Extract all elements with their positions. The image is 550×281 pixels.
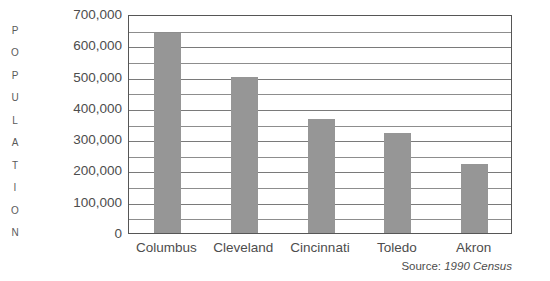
y-axis-tick-label: 0	[38, 227, 122, 241]
bar-akron	[461, 164, 488, 233]
x-axis-tick-label: Columbus	[136, 240, 197, 255]
y-axis-tick-label: 600,000	[38, 39, 122, 53]
source-value: 1990 Census	[444, 260, 512, 272]
y-axis-title-letter: I	[14, 183, 17, 193]
y-axis-title: P O P U L A T I O N	[4, 26, 26, 238]
y-axis-title-letter: O	[11, 206, 19, 216]
bar-columbus	[154, 33, 181, 233]
y-axis-title-letter: A	[12, 138, 19, 148]
y-axis-tick-label: 200,000	[38, 164, 122, 178]
y-axis-title-letter: O	[11, 48, 19, 58]
y-axis-tick-label: 300,000	[38, 133, 122, 147]
y-axis-tick-labels: 700,000600,000500,000400,000300,000200,0…	[40, 0, 128, 281]
y-axis-title-letter: N	[11, 228, 18, 238]
y-axis-title-letter: L	[12, 116, 18, 126]
bars-layer	[129, 16, 511, 233]
population-bar-chart: P O P U L A T I O N 700,000600,000500,00…	[0, 0, 550, 281]
x-axis-tick-label: Cincinnati	[290, 240, 349, 255]
y-axis-tick-label: 700,000	[38, 8, 122, 22]
bar-cleveland	[231, 77, 258, 233]
y-axis-tick-label: 400,000	[38, 102, 122, 116]
x-axis-tick-label: Toledo	[377, 240, 417, 255]
bar-toledo	[384, 133, 411, 233]
y-axis-title-letter: P	[12, 71, 19, 81]
y-axis-tick-label: 100,000	[38, 196, 122, 210]
y-axis-title-letter: U	[11, 93, 18, 103]
plot-area	[128, 15, 512, 234]
x-axis-tick-label: Akron	[456, 240, 491, 255]
y-axis-tick-label: 500,000	[38, 71, 122, 85]
y-axis-title-letter: T	[12, 161, 18, 171]
source-prefix: Source:	[401, 260, 441, 272]
bar-cincinnati	[308, 119, 335, 233]
y-axis-title-letter: P	[12, 26, 19, 36]
source-note: Source: 1990 Census	[401, 260, 512, 273]
x-axis-tick-labels: ColumbusClevelandCincinnatiToledoAkron	[128, 240, 512, 260]
x-axis-tick-label: Cleveland	[213, 240, 273, 255]
